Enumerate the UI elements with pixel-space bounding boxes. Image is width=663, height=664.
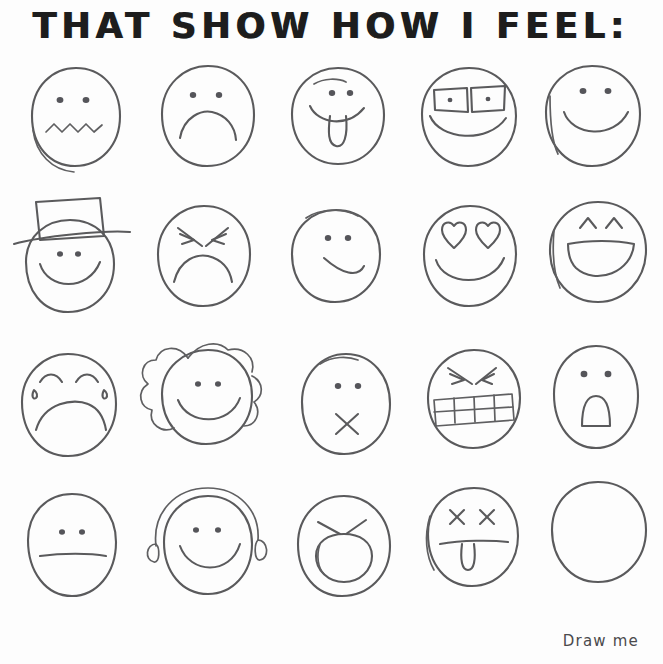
face-gritted-teeth[interactable] <box>408 336 540 476</box>
face-heart-eyes[interactable] <box>404 192 536 332</box>
face-smirk[interactable] <box>272 196 404 336</box>
face-worried[interactable] <box>8 54 140 194</box>
face-happy[interactable] <box>528 54 660 194</box>
faces-grid <box>0 50 663 610</box>
face-tongue-out[interactable] <box>272 54 404 194</box>
face-laughing[interactable] <box>532 188 663 328</box>
page-title-bar: THAT SHOW HOW I FEEL: <box>0 0 663 52</box>
face-shouting[interactable] <box>278 478 410 618</box>
face-top-hat[interactable] <box>2 192 134 332</box>
face-glasses[interactable] <box>404 54 536 194</box>
page-title: THAT SHOW HOW I FEEL: <box>33 9 630 44</box>
face-curly-hair[interactable] <box>132 328 264 468</box>
face-x-mouth[interactable] <box>280 340 412 480</box>
face-crying[interactable] <box>4 338 136 478</box>
face-angry[interactable] <box>136 192 268 332</box>
face-sad[interactable] <box>140 54 272 194</box>
face-blank[interactable] <box>534 468 663 608</box>
worksheet-sheet: THAT SHOW HOW I FEEL: <box>0 0 663 664</box>
face-shocked[interactable] <box>530 332 662 472</box>
face-neutral[interactable] <box>6 480 138 620</box>
draw-me-caption: Draw me <box>563 632 639 650</box>
face-dead[interactable] <box>406 470 538 610</box>
face-headphones[interactable] <box>138 474 270 614</box>
